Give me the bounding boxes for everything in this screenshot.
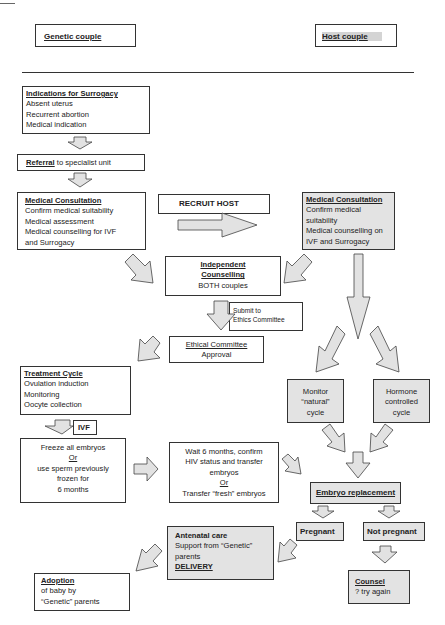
- arrow-down-icon: [347, 254, 370, 339]
- arrow-down-icon: [372, 546, 397, 563]
- arrow-down-left-icon: [136, 544, 162, 571]
- arrow-down-left-icon: [316, 326, 345, 372]
- arrow-down-icon: [346, 452, 370, 478]
- arrow-down-icon: [312, 506, 334, 518]
- arrow-down-icon: [207, 301, 235, 330]
- arrow-down-left-icon: [370, 424, 393, 452]
- arrow-down-left-icon: [138, 336, 160, 361]
- arrow-right-icon: [178, 213, 257, 237]
- arrow-down-right-icon: [370, 326, 399, 372]
- arrow-down-left-icon: [284, 254, 312, 283]
- arrow-down-left-icon: [278, 539, 297, 562]
- flow-arrows: [0, 0, 445, 625]
- arrow-down-right-icon: [282, 454, 301, 474]
- arrow-right-icon: [134, 457, 158, 481]
- arrow-down-icon: [68, 173, 92, 187]
- arrow-down-right-icon: [322, 424, 345, 452]
- arrow-down-right-icon: [125, 254, 153, 283]
- arrow-down-icon: [68, 137, 92, 149]
- arrow-down-icon: [45, 420, 73, 434]
- arrow-down-icon: [378, 506, 400, 518]
